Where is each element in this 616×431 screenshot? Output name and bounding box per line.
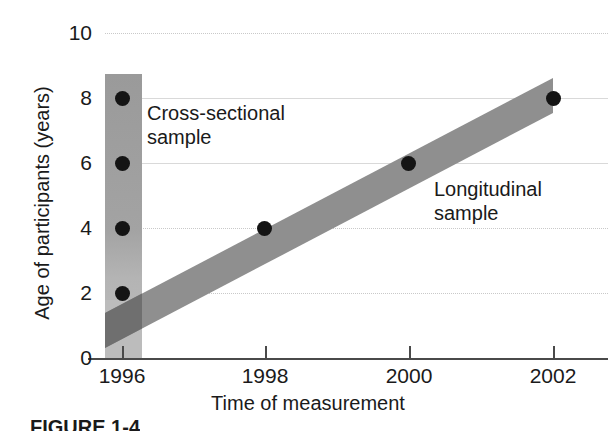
annotation-cross-sectional-line1: Cross-sectional [147, 101, 337, 125]
annotation-longitudinal-line1: Longitudinal [434, 177, 614, 201]
x-tick-label-2002: 2002 [498, 364, 608, 388]
y-tick-label-6: 6 [56, 152, 92, 173]
data-point-1996-8 [115, 91, 130, 106]
annotation-cross-sectional-line2: sample [147, 125, 337, 149]
x-axis-title: Time of measurement [0, 392, 616, 414]
y-tick-label-2: 2 [56, 282, 92, 303]
x-tick-2002 [553, 346, 555, 359]
y-axis-title: Age of participants (years) [31, 53, 53, 353]
annotation-longitudinal-line2: sample [434, 201, 614, 225]
data-point-1996-4 [115, 221, 130, 236]
figure-caption: FIGURE 1-4 [30, 416, 140, 431]
data-point-1996-2 [115, 286, 130, 301]
annotation-cross-sectional: Cross-sectional sample [147, 101, 337, 149]
y-tick-label-8: 8 [56, 87, 92, 108]
x-tick-label-1996: 1996 [67, 364, 177, 388]
chart-plot-area: 10 8 6 4 2 0 1996 1998 2000 2002 Time of… [0, 0, 616, 431]
y-tick-label-4: 4 [56, 217, 92, 238]
data-point-2002-8 [546, 91, 561, 106]
x-tick-2000 [409, 346, 411, 359]
data-point-2000-6 [401, 156, 416, 171]
x-tick-label-1998: 1998 [210, 364, 320, 388]
x-tick-1998 [265, 346, 267, 359]
figure-container: 10 8 6 4 2 0 1996 1998 2000 2002 Time of… [0, 0, 616, 431]
x-tick-1996 [122, 346, 124, 359]
x-axis-line [88, 358, 608, 360]
y-tick-label-10: 10 [56, 22, 92, 43]
data-point-1998-4 [257, 221, 272, 236]
x-tick-label-2000: 2000 [354, 364, 464, 388]
annotation-longitudinal: Longitudinal sample [434, 177, 614, 225]
data-point-1996-6 [115, 156, 130, 171]
